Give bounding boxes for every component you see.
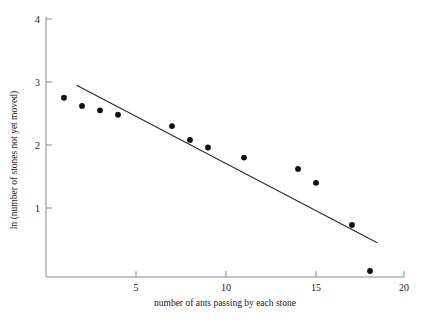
x-tick-label-15: 15 — [311, 282, 321, 293]
data-point — [187, 137, 193, 143]
x-tick-label-5: 5 — [134, 282, 139, 293]
data-point — [115, 112, 121, 118]
trendline-group — [77, 85, 378, 243]
y-tick-label-3: 3 — [35, 77, 40, 88]
x-axis-label: number of ants passing by each stone — [154, 298, 296, 308]
y-tick-label-2: 2 — [35, 140, 40, 151]
scatter-plot-figure: 4 3 2 1 5 10 15 20 number of ants passin… — [0, 0, 436, 324]
data-point — [97, 107, 103, 113]
y-tick-label-1: 1 — [35, 203, 40, 214]
data-point — [169, 123, 175, 129]
data-point — [367, 268, 373, 274]
y-tick-label-4: 4 — [35, 14, 40, 25]
data-point — [295, 166, 301, 172]
datapoints-group — [61, 95, 373, 274]
data-point — [79, 103, 85, 109]
data-point — [205, 145, 211, 151]
trendline — [77, 85, 378, 243]
data-point — [313, 180, 319, 186]
plot-canvas: 4 3 2 1 5 10 15 20 number of ants passin… — [0, 0, 436, 324]
x-axis-ticks — [136, 271, 404, 277]
data-point — [61, 95, 67, 101]
x-tick-label-20: 20 — [399, 282, 409, 293]
data-point — [241, 155, 247, 161]
data-point — [349, 222, 355, 228]
x-tick-label-10: 10 — [221, 282, 231, 293]
y-axis-ticks — [46, 19, 52, 208]
y-axis-label: ln (number of stones not yet moved) — [9, 91, 20, 229]
